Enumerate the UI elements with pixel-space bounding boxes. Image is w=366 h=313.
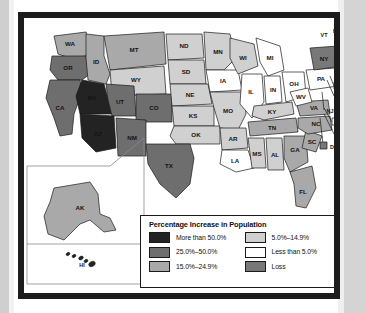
state-label-va: VA xyxy=(310,104,319,111)
legend-column: 5.0%–14.9%Less than 5.0%Loss xyxy=(245,232,333,272)
page-gutter-right xyxy=(344,0,366,313)
figure-inner: WAORCAIDNVMTWYUTAZCONMNDSDNEKSOKTXMNIAMO… xyxy=(24,18,334,293)
legend-item: Less than 5.0% xyxy=(245,247,333,258)
state-label-ar: AR xyxy=(229,135,238,142)
legend-swatch xyxy=(245,261,266,272)
state-label-ks: KS xyxy=(189,112,198,119)
state-label-tn: TN xyxy=(268,124,277,131)
state-dc xyxy=(320,142,327,149)
state-label-dc: DC xyxy=(330,144,334,150)
state-hi xyxy=(66,252,71,256)
state-label-wi: WI xyxy=(239,54,247,61)
state-tx xyxy=(146,144,194,198)
legend-item: 25.0%–50.0% xyxy=(149,247,237,258)
state-label-az: AZ xyxy=(94,130,102,137)
state-label-nh: NH xyxy=(333,28,334,34)
state-label-il: IL xyxy=(248,88,254,95)
state-label-fl: FL xyxy=(299,188,307,195)
map-legend: Percentage Increase in Population More t… xyxy=(140,215,334,288)
state-label-ny: NY xyxy=(320,55,329,62)
state-label-wy: WY xyxy=(131,76,142,83)
state-label-hi: HI xyxy=(79,262,85,268)
state-label-nc: NC xyxy=(312,120,321,127)
state-label-wa: WA xyxy=(65,40,75,47)
state-label-mn: MN xyxy=(213,48,223,55)
state-label-pa: PA xyxy=(317,75,326,82)
legend-swatch xyxy=(149,232,170,243)
state-label-ia: IA xyxy=(220,77,227,84)
state-hi xyxy=(78,255,84,260)
state-label-ok: OK xyxy=(191,131,201,138)
state-label-ky: KY xyxy=(268,108,277,115)
state-hi xyxy=(72,254,77,258)
state-hi xyxy=(88,260,96,267)
state-label-ms: MS xyxy=(252,150,261,157)
state-label-mi: MI xyxy=(267,54,274,61)
state-de xyxy=(332,118,334,125)
legend-label: 5.0%–14.9% xyxy=(272,235,310,242)
legend-swatch xyxy=(245,232,266,243)
state-label-mt: MT xyxy=(130,46,139,53)
legend-label: 25.0%–50.0% xyxy=(176,249,217,256)
page-background: WAORCAIDNVMTWYUTAZCONMNDSDNEKSOKTXMNIAMO… xyxy=(0,0,366,313)
legend-label: 15.0%–24.9% xyxy=(176,264,217,271)
legend-item: Loss xyxy=(245,261,333,272)
state-label-ga: GA xyxy=(290,146,300,153)
legend-columns: More than 50.0%25.0%–50.0%15.0%–24.9%5.0… xyxy=(149,232,332,272)
legend-swatch xyxy=(149,247,170,258)
legend-item: 5.0%–14.9% xyxy=(245,232,333,243)
state-label-ak: AK xyxy=(76,204,85,211)
state-label-nj: NJ xyxy=(327,108,334,114)
figure-frame: WAORCAIDNVMTWYUTAZCONMNDSDNEKSOKTXMNIAMO… xyxy=(18,12,340,299)
state-label-sd: SD xyxy=(182,68,191,75)
state-label-al: AL xyxy=(271,151,279,158)
legend-item: More than 50.0% xyxy=(149,232,237,243)
state-label-sc: SC xyxy=(308,138,317,145)
state-label-ne: NE xyxy=(186,91,195,98)
state-label-wv: WV xyxy=(296,93,307,100)
state-label-oh: OH xyxy=(289,80,299,87)
state-label-or: OR xyxy=(63,64,73,71)
state-ak xyxy=(44,182,116,240)
legend-label: Less than 5.0% xyxy=(272,249,317,256)
legend-title: Percentage Increase in Population xyxy=(149,221,332,228)
legend-swatch xyxy=(245,247,266,258)
legend-label: More than 50.0% xyxy=(176,235,226,242)
state-label-nm: NM xyxy=(127,134,137,141)
state-label-id: ID xyxy=(93,58,100,65)
state-label-in: IN xyxy=(270,86,277,93)
state-label-nd: ND xyxy=(180,42,189,49)
state-label-ut: UT xyxy=(116,98,124,105)
state-label-la: LA xyxy=(231,157,240,164)
legend-item: 15.0%–24.9% xyxy=(149,261,237,272)
state-label-mo: MO xyxy=(223,107,233,114)
state-label-co: CO xyxy=(149,104,158,111)
page-gutter-left-inner xyxy=(9,0,14,313)
state-label-vt: VT xyxy=(321,32,329,38)
page-gutter-left xyxy=(0,0,9,313)
state-label-nv: NV xyxy=(88,94,97,101)
legend-label: Loss xyxy=(272,264,286,271)
state-label-tx: TX xyxy=(165,162,174,169)
legend-column: More than 50.0%25.0%–50.0%15.0%–24.9% xyxy=(149,232,237,272)
state-label-ca: CA xyxy=(56,104,65,111)
legend-swatch xyxy=(149,261,170,272)
